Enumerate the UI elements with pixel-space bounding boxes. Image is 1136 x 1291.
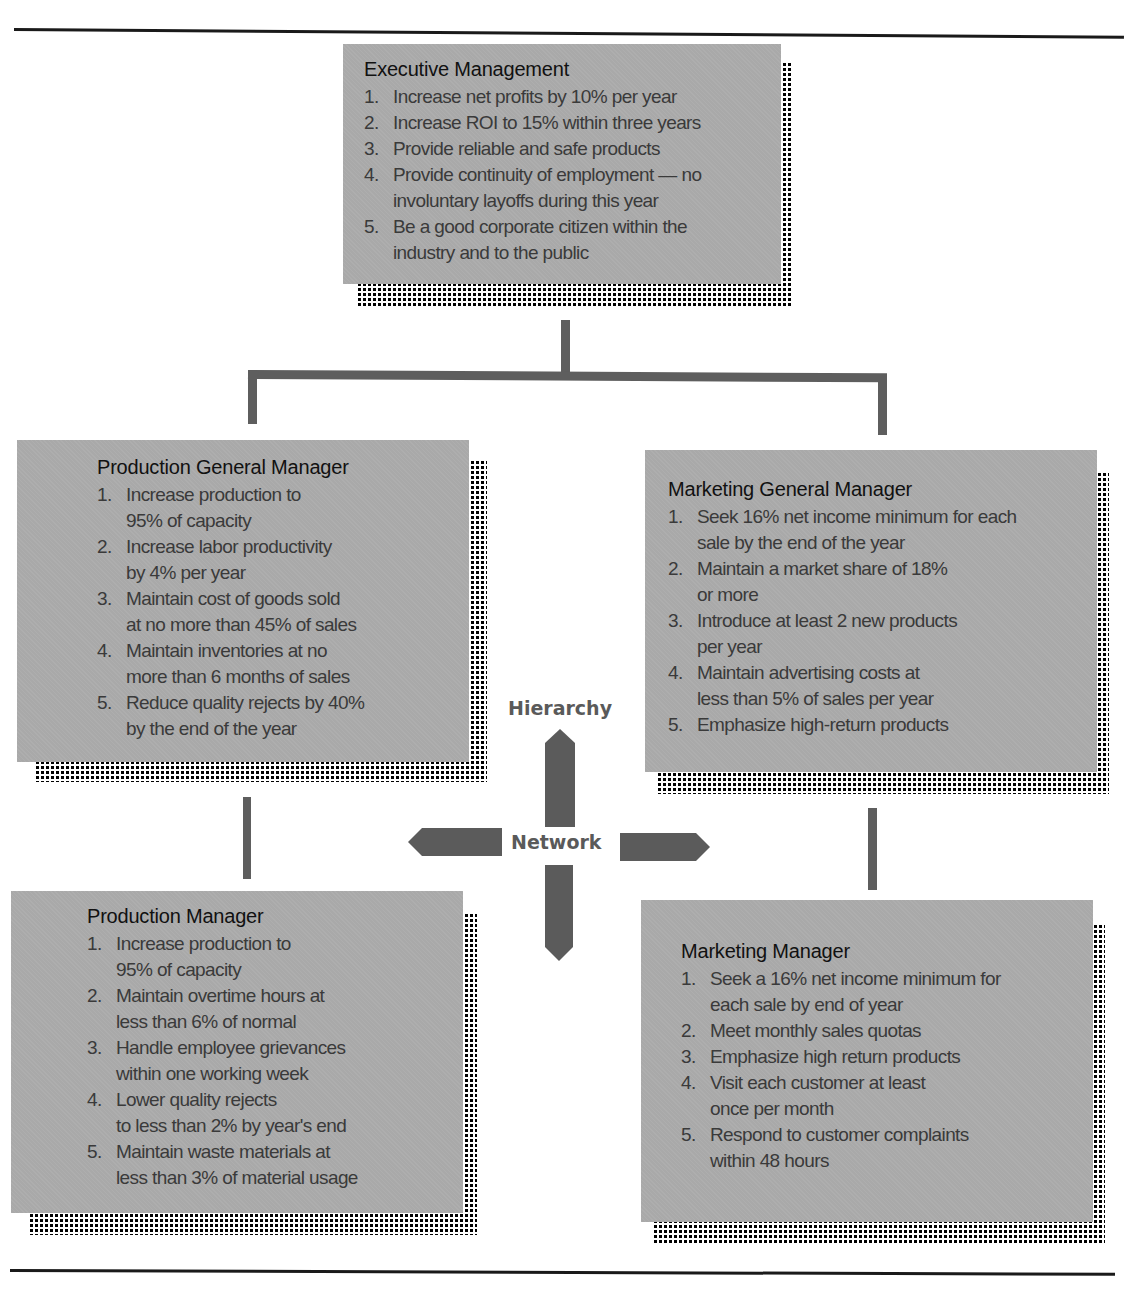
- arrow-left-icon: [408, 828, 502, 856]
- goal-item: 5.Maintain waste materials at less than …: [87, 1139, 463, 1191]
- box-title: Marketing Manager: [681, 940, 1093, 963]
- arrow-down-icon: [545, 865, 573, 961]
- goal-item: 1.Increase production to 95% of capacity: [97, 482, 469, 534]
- goal-item: 4.Provide continuity of employment — no …: [364, 162, 781, 214]
- hierarchy-label: Hierarchy: [508, 697, 612, 719]
- goal-list: 1.Increase production to 95% of capacity…: [87, 931, 463, 1191]
- goal-item: 3.Provide reliable and safe products: [364, 136, 781, 162]
- connector-horizontal-bar: [248, 370, 887, 382]
- goal-item: 3.Maintain cost of goods sold at no more…: [97, 586, 469, 638]
- connector-marketing-gm-to-manager: [868, 808, 877, 890]
- arrow-up-icon: [545, 729, 575, 827]
- goal-list: 1.Increase net profits by 10% per year 2…: [364, 84, 781, 266]
- goal-item: 5.Be a good corporate citizen within the…: [364, 214, 781, 266]
- box-title: Executive Management: [364, 58, 781, 81]
- top-rule: [14, 28, 1124, 39]
- goal-item: 2.Increase ROI to 15% within three years: [364, 110, 781, 136]
- goal-list: 1.Increase production to 95% of capacity…: [97, 482, 469, 742]
- network-label: Network: [511, 831, 601, 853]
- connector-to-marketing-gm: [878, 375, 887, 435]
- goal-item: 3.Handle employee grievances within one …: [87, 1035, 463, 1087]
- connector-executive-stem: [561, 320, 570, 376]
- goal-item: 5.Emphasize high-return products: [668, 712, 1097, 738]
- goal-list: 1.Seek 16% net income minimum for each s…: [668, 504, 1097, 738]
- goal-item: 4.Maintain inventories at no more than 6…: [97, 638, 469, 690]
- goal-item: 2.Maintain a market share of 18% or more: [668, 556, 1097, 608]
- goal-item: 4.Lower quality rejects to less than 2% …: [87, 1087, 463, 1139]
- goal-item: 4.Visit each customer at least once per …: [681, 1070, 1093, 1122]
- box-title: Marketing General Manager: [668, 478, 1097, 501]
- goal-item: 2.Maintain overtime hours at less than 6…: [87, 983, 463, 1035]
- goal-item: 5.Respond to customer complaints within …: [681, 1122, 1093, 1174]
- goal-list: 1.Seek a 16% net income minimum for each…: [681, 966, 1093, 1174]
- goal-item: 1.Seek 16% net income minimum for each s…: [668, 504, 1097, 556]
- box-title: Production Manager: [87, 905, 463, 928]
- goal-item: 4.Maintain advertising costs at less tha…: [668, 660, 1097, 712]
- box-title: Production General Manager: [97, 456, 469, 479]
- goal-item: 5.Reduce quality rejects by 40% by the e…: [97, 690, 469, 742]
- goal-item: 1.Seek a 16% net income minimum for each…: [681, 966, 1093, 1018]
- bottom-rule: [10, 1269, 1115, 1276]
- goal-item: 1.Increase net profits by 10% per year: [364, 84, 781, 110]
- arrow-right-icon: [620, 833, 710, 861]
- goal-item: 2.Meet monthly sales quotas: [681, 1018, 1093, 1044]
- connector-production-gm-to-manager: [243, 797, 251, 879]
- goal-item: 3.Emphasize high return products: [681, 1044, 1093, 1070]
- goal-item: 3.Introduce at least 2 new products per …: [668, 608, 1097, 660]
- goal-item: 1.Increase production to 95% of capacity: [87, 931, 463, 983]
- connector-to-production-gm: [248, 370, 257, 424]
- goal-item: 2.Increase labor productivity by 4% per …: [97, 534, 469, 586]
